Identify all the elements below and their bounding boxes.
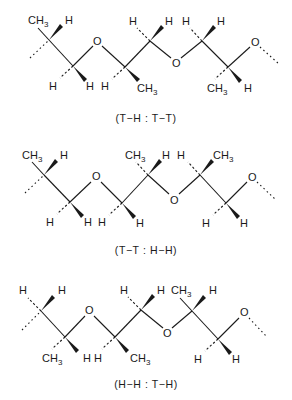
chain-end-right: [260, 47, 279, 64]
hydrogen-label: H: [240, 217, 248, 229]
hydrogen-label: H: [177, 149, 185, 161]
wedge-bond: [228, 67, 242, 83]
hydrogen-label: H: [182, 15, 190, 27]
bond-o2-c5: [172, 311, 192, 328]
bond-o2-c5: [179, 175, 200, 194]
dash-bond: [215, 67, 228, 79]
wedge-bond: [150, 25, 164, 41]
methyl-label: CH3: [171, 284, 192, 299]
bond-c4-o2: [141, 310, 163, 328]
wedge-bond: [148, 159, 162, 175]
hydrogen-label: H: [244, 82, 252, 94]
oxygen-label: O: [93, 35, 102, 47]
methyl-label: CH3: [137, 82, 158, 97]
dash-bond: [109, 203, 122, 215]
dash-bond: [213, 203, 226, 215]
bond-c5-c6: [200, 175, 226, 203]
oxygen-label: O: [163, 327, 172, 339]
wedge-bond: [65, 337, 79, 353]
bond-c6-o3: [226, 182, 247, 203]
bond-c2-o1: [73, 46, 93, 66]
hydrogen-label: H: [136, 217, 144, 229]
chain-end-right: [257, 182, 276, 200]
hydrogen-label: H: [49, 80, 57, 92]
hydrogen-label: H: [120, 284, 128, 296]
bond-o1-c3: [102, 46, 125, 67]
hydrogen-label: H: [202, 217, 210, 229]
methyl-label: CH3: [28, 14, 49, 29]
chemical-diagram: CH3 H H H O H CH3 H H O H H CH3 H O (T−H…: [0, 0, 292, 400]
hydrogen-label: H: [19, 284, 27, 296]
hydrogen-label: H: [162, 149, 170, 161]
hydrogen-label: H: [129, 15, 137, 27]
hydrogen-label: H: [165, 15, 173, 27]
dash-bond: [205, 339, 218, 351]
bond-c6-o3: [228, 47, 250, 67]
methyl-label: CH3: [213, 149, 234, 164]
structure-caption: (H−H : T−H): [114, 378, 178, 390]
hydrogen-label: H: [232, 353, 240, 365]
bond-o2-c5: [181, 41, 202, 58]
bond-c2-o1: [65, 316, 85, 337]
wedge-bond: [202, 25, 216, 41]
hydrogen-label: H: [86, 80, 94, 92]
hydrogen-label: H: [98, 216, 106, 228]
wedge-bond: [115, 337, 129, 353]
oxygen-label: O: [85, 304, 94, 316]
chain-end-left: [22, 311, 41, 330]
wedge-bond: [70, 202, 84, 218]
hydrogen-label: H: [157, 284, 165, 296]
dash-bond: [128, 297, 141, 310]
bond-o1-c3: [94, 316, 115, 337]
bond-c1-ch3: [38, 28, 49, 40]
bond-c6-o3: [218, 318, 239, 339]
wedge-bond: [125, 67, 140, 82]
chain-end-left: [25, 175, 44, 193]
hydrogen-label: H: [65, 14, 73, 26]
hydrogen-label: H: [60, 149, 68, 161]
oxygen-label: O: [92, 170, 101, 182]
chain-end-right: [249, 318, 267, 337]
dash-bond: [188, 162, 200, 175]
oxygen-label: O: [240, 306, 249, 318]
structure-caption: (T−T : H−H): [115, 244, 177, 256]
hydrogen-label: H: [84, 216, 92, 228]
bond-c3-c4: [125, 41, 150, 67]
structure-1: CH3 H H H O H CH3 H H O H H CH3 H O (T−H…: [28, 14, 279, 124]
hydrogen-label: H: [58, 284, 66, 296]
wedge-bond: [44, 159, 58, 175]
dash-bond: [137, 28, 150, 41]
structure-2: CH3 H H H O H H CH3 H O H CH3 H H O (T−T…: [22, 149, 276, 256]
wedge-bond: [122, 203, 136, 219]
wedge-bond: [41, 295, 55, 311]
wedge-bond: [192, 295, 206, 311]
oxygen-label: O: [248, 171, 257, 183]
dash-bond: [60, 66, 73, 78]
oxygen-label: O: [170, 194, 179, 206]
dash-bond: [57, 202, 70, 214]
hydrogen-label: H: [94, 352, 102, 364]
wedge-bond: [49, 24, 63, 40]
dash-bond: [52, 337, 65, 349]
hydrogen-label: H: [217, 15, 225, 27]
bond-c5-c6: [202, 41, 228, 67]
wedge-bond: [226, 203, 240, 219]
structure-caption: (T−H : T−T): [115, 112, 176, 124]
chain-end-left: [30, 40, 49, 58]
bond-c5-c6: [192, 311, 218, 339]
wedge-bond: [200, 159, 214, 175]
hydrogen-label: H: [83, 352, 91, 364]
oxygen-label: O: [172, 57, 181, 69]
bond-c3-c4: [115, 310, 141, 337]
bond-c3-c4: [122, 175, 148, 203]
hydrogen-label: H: [101, 80, 109, 92]
bond-c1-c2: [44, 175, 70, 202]
methyl-label: CH3: [42, 352, 63, 367]
dash-bond: [102, 337, 115, 349]
wedge-bond: [141, 294, 155, 310]
dash-bond: [28, 298, 41, 311]
bond-o1-c3: [101, 182, 122, 203]
bond-c4-o2: [148, 175, 169, 194]
bond-c1-c2: [41, 311, 65, 337]
wedge-bond: [73, 66, 87, 82]
